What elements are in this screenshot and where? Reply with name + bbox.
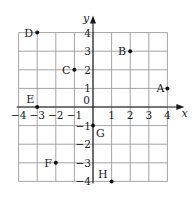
y-axis-label: y — [82, 12, 90, 25]
point-marker — [165, 86, 169, 90]
point-marker — [91, 124, 95, 128]
y-axis-arrow-icon — [90, 16, 96, 24]
x-tick-label: 2 — [127, 109, 134, 121]
point-marker — [72, 68, 76, 72]
point-label: C — [62, 64, 70, 77]
x-tick-label: −3 — [29, 109, 44, 121]
point-marker — [35, 31, 39, 35]
y-tick-label: 1 — [84, 82, 91, 94]
point-label: D — [24, 27, 33, 40]
point-label: E — [26, 93, 34, 106]
origin-label: 0 — [83, 94, 90, 106]
y-tick-label: −4 — [76, 175, 92, 187]
point-label: A — [155, 82, 165, 95]
point-marker — [110, 179, 114, 183]
point-label: G — [96, 127, 105, 140]
plotted-points: ABCDEFGH — [24, 27, 169, 184]
point-marker — [35, 105, 39, 109]
x-tick-label: 3 — [145, 109, 152, 121]
x-tick-label: −2 — [48, 109, 63, 121]
y-tick-label: 2 — [84, 64, 91, 76]
point-label: B — [118, 45, 126, 58]
axes: xy — [17, 12, 189, 184]
point-label: H — [98, 168, 108, 181]
y-tick-label: −3 — [76, 157, 91, 169]
y-tick-label: 3 — [84, 45, 91, 57]
x-axis-label: x — [181, 107, 188, 120]
y-tick-label: 4 — [84, 27, 91, 39]
y-tick-label: −2 — [76, 138, 91, 150]
point-marker — [54, 161, 58, 165]
point-marker — [128, 49, 132, 53]
coordinate-grid: xy −4−3−2−112344321−1−2−3−40 ABCDEFGH — [0, 0, 192, 198]
x-tick-label: −4 — [11, 109, 27, 121]
point-label: F — [44, 157, 52, 170]
x-tick-label: 1 — [108, 109, 115, 121]
y-tick-label: −1 — [76, 120, 91, 132]
x-tick-label: 4 — [164, 109, 171, 121]
